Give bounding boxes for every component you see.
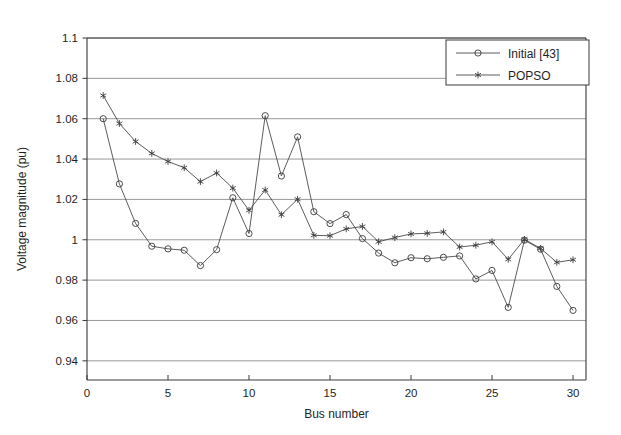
y-tick-label: 1.02 [56, 193, 78, 205]
y-axis-title: Voltage magnitude (pu) [15, 147, 29, 271]
legend-label: Initial [43] [508, 47, 559, 61]
axes-frame [87, 38, 586, 380]
data-point-star [100, 92, 106, 99]
x-tick-label: 10 [243, 387, 256, 399]
data-point-star [149, 150, 155, 157]
y-tick-label: 1.08 [56, 72, 78, 84]
data-point-star [197, 178, 203, 185]
chart-figure: 0.940.960.9811.021.041.061.081.105101520… [0, 0, 621, 435]
y-tick-label: 1.1 [62, 32, 78, 44]
y-tick-label: 0.98 [56, 274, 78, 286]
y-tick-label: 1.06 [56, 113, 78, 125]
series-line [103, 96, 573, 263]
x-tick-label: 20 [405, 387, 418, 399]
x-axis-ticks: 051015202530 [84, 375, 580, 399]
y-tick-label: 1.04 [56, 153, 79, 165]
x-tick-label: 0 [84, 387, 90, 399]
x-axis-title: Bus number [304, 407, 369, 421]
y-tick-label: 0.96 [56, 314, 78, 326]
y-tick-label: 0.94 [56, 355, 79, 367]
series-line [103, 116, 573, 311]
x-tick-label: 15 [324, 387, 337, 399]
voltage-magnitude-line-chart: 0.940.960.9811.021.041.061.081.105101520… [0, 0, 621, 435]
gridlines [87, 38, 586, 361]
legend: Initial [43]POPSO [446, 40, 589, 85]
x-tick-label: 30 [567, 387, 580, 399]
data-point-star [181, 164, 187, 171]
y-axis-ticks: 0.940.960.9811.021.041.061.081.1 [56, 32, 87, 367]
legend-label: POPSO [508, 69, 551, 83]
x-tick-label: 5 [165, 387, 171, 399]
y-tick-label: 1 [72, 234, 78, 246]
x-tick-label: 25 [486, 387, 499, 399]
series-initial [100, 113, 576, 314]
